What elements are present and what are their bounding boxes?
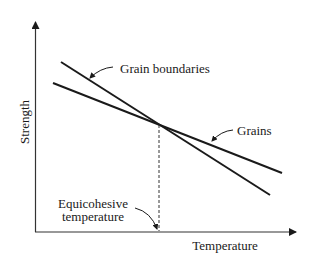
- grains-arrow-icon: [212, 130, 233, 141]
- y-axis-label: Strength: [17, 99, 32, 144]
- equicohesive-arrow-icon: [135, 208, 157, 229]
- grain-boundaries-arrow-icon: [90, 67, 113, 78]
- grains-label: Grains: [237, 123, 272, 138]
- grain-boundaries-label: Grain boundaries: [120, 61, 210, 76]
- strength-temperature-diagram: Grain boundaries Grains Equicohesive tem…: [0, 0, 316, 268]
- x-axis-label: Temperature: [192, 238, 258, 253]
- equicohesive-label-line2: temperature: [62, 209, 124, 224]
